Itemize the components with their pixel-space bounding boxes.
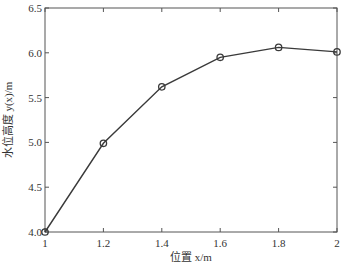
data-series-line bbox=[45, 47, 337, 232]
x-tick-label: 2 bbox=[334, 237, 340, 249]
x-tick-label: 1.2 bbox=[97, 237, 111, 249]
y-axis-label: 水位高度 y(x)/m bbox=[1, 81, 15, 158]
y-tick-label: 6.0 bbox=[28, 47, 42, 59]
y-tick-label: 6.5 bbox=[28, 2, 42, 14]
y-tick-label: 4.0 bbox=[28, 226, 42, 238]
y-tick-label: 4.5 bbox=[28, 181, 42, 193]
y-axis-ticks: 4.04.55.05.56.06.5 bbox=[28, 2, 337, 238]
data-markers bbox=[42, 44, 340, 235]
line-chart: 4.04.55.05.56.06.5 11.21.41.61.82 位置 x/m… bbox=[0, 0, 346, 271]
y-tick-label: 5.5 bbox=[28, 92, 42, 104]
x-tick-label: 1 bbox=[42, 237, 48, 249]
x-tick-label: 1.4 bbox=[155, 237, 169, 249]
x-axis-label: 位置 x/m bbox=[170, 250, 212, 263]
plot-frame bbox=[45, 8, 337, 232]
y-tick-label: 5.0 bbox=[28, 136, 42, 148]
x-tick-label: 1.8 bbox=[272, 237, 286, 249]
x-axis-ticks: 11.21.41.61.82 bbox=[42, 8, 340, 249]
x-tick-label: 1.6 bbox=[213, 237, 227, 249]
